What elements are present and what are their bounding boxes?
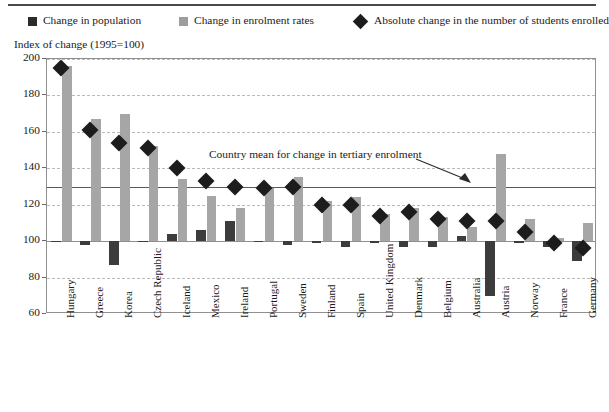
x-tick-label: France <box>558 288 569 318</box>
chart-column <box>452 59 481 312</box>
bar-population <box>51 241 61 242</box>
x-tick-label: Austria <box>500 286 511 318</box>
chart-column <box>163 59 192 312</box>
y-tick-label: 100 <box>0 234 40 245</box>
y-tick-label: 60 <box>0 307 40 318</box>
x-tick-label: Denmark <box>413 277 424 318</box>
legend-item-label: Absolute change in the number of student… <box>374 15 609 26</box>
x-tick-label: Norway <box>529 283 540 318</box>
chart-column <box>192 59 221 312</box>
bar-population <box>138 241 148 242</box>
plot-area <box>46 58 596 313</box>
bar-population <box>196 230 206 241</box>
x-tick-label: Mexico <box>210 284 221 318</box>
chart-column <box>510 59 539 312</box>
x-tick-label: Korea <box>123 291 134 318</box>
bar-population <box>109 241 119 265</box>
bar-population <box>485 241 495 296</box>
legend-item-2: Absolute change in the number of student… <box>354 15 609 26</box>
x-tick-label: Iceland <box>181 286 192 318</box>
x-tick-label: Czech Republic <box>152 248 163 318</box>
chart-column <box>47 59 76 312</box>
bar-population <box>428 241 438 246</box>
legend-item-label: Change in enrolment rates <box>194 15 314 26</box>
chart-column <box>250 59 279 312</box>
y-tick-mark <box>42 94 46 95</box>
y-tick-label: 140 <box>0 162 40 173</box>
marker-absolute-change <box>169 160 186 177</box>
y-axis-title: Index of change (1995=100) <box>14 38 144 50</box>
chart-column <box>423 59 452 312</box>
x-tick-label: Ireland <box>239 287 250 318</box>
bar-enrolment-rate <box>207 196 217 242</box>
bar-population <box>225 221 235 241</box>
bar-population <box>514 241 524 243</box>
bar-enrolment-rate <box>178 179 188 241</box>
light-square-icon <box>179 17 188 26</box>
dark-square-icon <box>28 17 37 26</box>
y-tick-label: 80 <box>0 271 40 282</box>
x-tick-label: Greece <box>94 287 105 318</box>
legend-item-0: Change in population <box>28 15 141 26</box>
x-tick-label: Spain <box>355 293 366 318</box>
chart-column <box>308 59 337 312</box>
chart-column <box>481 59 510 312</box>
chart-column <box>568 59 596 312</box>
marker-absolute-change <box>227 178 244 195</box>
bar-enrolment-rate <box>467 227 477 242</box>
chart-legend: Change in populationChange in enrolment … <box>14 12 594 30</box>
mean-annotation-label: Country mean for change in tertiary enro… <box>209 148 422 160</box>
chart-column <box>221 59 250 312</box>
y-tick-label: 160 <box>0 125 40 136</box>
bar-population <box>312 241 322 243</box>
y-tick-label: 200 <box>0 52 40 63</box>
bar-enrolment-rate <box>496 154 506 241</box>
bar-population <box>457 236 467 241</box>
y-tick-mark <box>42 313 46 314</box>
bar-population <box>341 241 351 246</box>
y-tick-mark <box>42 240 46 241</box>
bar-enrolment-rate <box>62 66 72 241</box>
bar-enrolment-rate <box>120 114 130 242</box>
y-tick-mark <box>42 204 46 205</box>
y-tick-label: 180 <box>0 89 40 100</box>
y-tick-mark <box>42 131 46 132</box>
bar-population <box>399 241 409 246</box>
y-tick-mark <box>42 167 46 168</box>
chart-column <box>336 59 365 312</box>
x-tick-label: Portugal <box>268 281 279 318</box>
bar-enrolment-rate <box>236 208 246 241</box>
legend-item-label: Change in population <box>43 15 141 26</box>
legend-item-1: Change in enrolment rates <box>179 15 314 26</box>
x-tick-label: Australia <box>471 278 482 318</box>
bar-enrolment-rate <box>265 188 275 241</box>
x-tick-label: United Kingdom <box>384 244 395 318</box>
bar-enrolment-rate <box>91 119 101 241</box>
bar-population <box>254 241 264 242</box>
chart-column <box>105 59 134 312</box>
marker-absolute-change <box>198 173 215 190</box>
x-tick-label: Belgium <box>442 280 453 318</box>
x-tick-label: Sweden <box>297 283 308 318</box>
x-tick-label: Hungary <box>65 280 76 319</box>
y-tick-label: 120 <box>0 198 40 209</box>
chart-column <box>76 59 105 312</box>
header-divider <box>8 4 596 6</box>
bar-population <box>283 241 293 245</box>
y-tick-mark <box>42 277 46 278</box>
bar-enrolment-rate <box>583 223 593 241</box>
y-tick-mark <box>42 58 46 59</box>
chart-column <box>279 59 308 312</box>
x-tick-label: Germany <box>587 277 598 318</box>
chart-column <box>394 59 423 312</box>
bar-population <box>80 241 90 245</box>
bar-population <box>370 241 380 243</box>
bar-population <box>167 234 177 241</box>
x-tick-label: Finland <box>326 284 337 318</box>
bar-enrolment-rate <box>149 146 159 241</box>
chart-column <box>539 59 568 312</box>
diamond-icon <box>353 13 369 29</box>
